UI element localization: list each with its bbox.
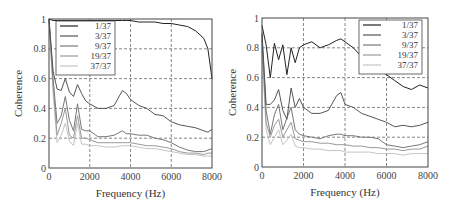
coherence-figure: 0200040006000800000.20.40.60.811/373/379…: [0, 0, 452, 206]
y-tick-label: 1: [41, 14, 46, 25]
y-tick-label: 0.2: [34, 133, 47, 144]
x-tick-label: 4000: [121, 171, 141, 182]
legend-label: 37/37: [397, 60, 418, 70]
x-tick-label: 2000: [80, 171, 100, 182]
x-tick-label: 4000: [335, 170, 355, 181]
x-axis-label: Frequency (Hz): [310, 186, 380, 199]
y-axis-label: Coherence: [226, 69, 238, 116]
x-tick-label: 0: [260, 170, 265, 181]
x-tick-label: 0: [47, 171, 52, 182]
y-tick-label: 0.4: [34, 103, 47, 114]
legend-label: 1/37: [95, 21, 112, 31]
y-tick-label: 0: [41, 163, 46, 174]
x-tick-label: 8000: [418, 170, 438, 181]
legend-label: 9/37: [402, 40, 419, 50]
y-axis-label: Coherence: [12, 70, 24, 117]
legend-label: 19/37: [397, 50, 418, 60]
legend-label: 3/37: [95, 31, 112, 41]
y-tick-label: 0: [254, 162, 259, 173]
y-tick-label: 0.6: [34, 73, 47, 84]
legend-label: 19/37: [90, 51, 111, 61]
y-tick-label: 0.6: [247, 72, 260, 83]
y-tick-label: 0.4: [247, 102, 260, 113]
x-tick-label: 6000: [377, 170, 397, 181]
x-axis-label: Frequency (Hz): [96, 187, 166, 200]
y-tick-label: 0.8: [247, 42, 260, 53]
legend-label: 9/37: [95, 41, 112, 51]
y-tick-label: 1: [254, 13, 259, 24]
y-tick-label: 0.2: [247, 132, 260, 143]
y-tick-label: 0.8: [34, 43, 47, 54]
x-tick-label: 2000: [294, 170, 314, 181]
right-coherence-chart: 0200040006000800000.20.40.60.811/373/379…: [226, 13, 438, 200]
legend-label: 1/37: [402, 20, 419, 30]
x-tick-label: 6000: [161, 171, 181, 182]
left-coherence-chart: 0200040006000800000.20.40.60.811/373/379…: [12, 14, 222, 201]
legend-label: 3/37: [402, 30, 419, 40]
x-tick-label: 8000: [202, 171, 222, 182]
legend-label: 37/37: [90, 61, 111, 71]
